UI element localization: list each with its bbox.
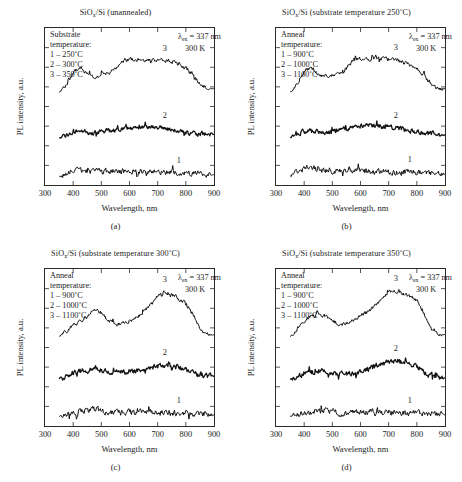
legend: Annealtemperature:1 – 900˚C2 – 1000˚C3 –… [281,30,322,80]
x-tick-label: 300 [39,430,52,439]
panel-d: SiOx/Si (substrate temperature 350˚C)Ann… [231,241,462,482]
excitation-wavelength: λex = 337 nm [178,272,221,284]
legend: Annealtemperature:1 – 900˚C2 – 1000˚C3 –… [50,271,91,321]
legend-item-2: 2 – 1000˚C [281,60,322,70]
legend-heading-line-2: temperature: [281,40,322,50]
legend-heading-line-1: Anneal [281,271,322,281]
legend-heading-line-1: Substrate [50,30,91,40]
panel-title: SiOx/Si (substrate temperature 350˚C) [231,249,462,259]
measurement-conditions: λex = 337 nm300 K [409,31,452,55]
curve-annotation-3: 3 [163,44,167,53]
panel-letter: (b) [231,221,462,231]
curve-annotation-2: 2 [163,111,167,120]
excitation-value: = 337 nm [187,273,221,282]
x-tick-label: 700 [151,189,164,198]
x-tick-label: 500 [326,430,339,439]
x-tick-label: 400 [298,430,311,439]
measurement-temperature: 300 K [178,43,221,55]
x-tick-label: 500 [95,430,108,439]
x-tick-label: 500 [326,189,339,198]
legend-item-1: 1 – 250˚C [50,50,91,60]
curve-annotation-3: 3 [163,275,167,284]
curve-annotation-1: 1 [408,396,412,405]
x-tick-label: 800 [180,189,193,198]
x-tick-label: 600 [354,189,367,198]
legend-heading-line-1: Anneal [281,30,322,40]
pl-spectra-figure: SiOx/Si (unannealed)Substratetemperature… [0,0,462,482]
legend: Substratetemperature:1 – 250˚C2 – 300˚C3… [50,30,91,80]
y-axis-title: PL intensity, a.u. [246,268,260,427]
x-tick-label: 300 [270,189,283,198]
x-tick-labels: 300400500600700800900 [44,430,215,442]
curve-annotation-2: 2 [394,111,398,120]
legend-item-3: 3 – 1100˚C [281,70,322,80]
legend-item-1: 1 – 900˚C [281,291,322,301]
curve-annotation-2: 2 [394,344,398,353]
legend-item-2: 2 – 1000˚C [50,301,91,311]
curve-annotation-3: 3 [394,43,398,52]
x-tick-label: 800 [411,430,424,439]
excitation-wavelength: λex = 337 nm [409,272,452,284]
legend-item-3: 3 – 1100˚C [281,311,322,321]
measurement-conditions: λex = 337 nm300 K [409,272,452,296]
panel-b: SiOx/Si (substrate temperature 250˚C)Ann… [231,0,462,241]
panel-title-suffix: /Si (substrate temperature 350˚C) [298,249,411,258]
x-tick-label: 900 [208,430,221,439]
panel-title: SiOx/Si (substrate temperature 300˚C) [0,249,231,259]
excitation-value: = 337 nm [418,32,452,41]
panel-c: SiOx/Si (substrate temperature 300˚C)Ann… [0,241,231,482]
panel-title-suffix: /Si (unannealed) [96,8,151,17]
x-tick-label: 500 [95,189,108,198]
legend-heading-line-2: temperature: [50,281,91,291]
spectrum-curve-2 [290,358,445,380]
spectrum-curve-1 [290,406,445,417]
x-tick-labels: 300400500600700800900 [275,189,446,201]
x-tick-labels: 300400500600700800900 [275,430,446,442]
panel-a: SiOx/Si (unannealed)Substratetemperature… [0,0,231,241]
legend-heading-line-1: Anneal [50,271,91,281]
measurement-temperature: 300 K [178,284,221,296]
x-tick-label: 700 [382,430,395,439]
y-axis-title: PL intensity, a.u. [246,27,260,186]
x-tick-label: 300 [270,430,283,439]
spectrum-curve-1 [290,164,445,177]
x-axis-title: Wavelength, nm [275,444,446,454]
legend-item-3: 3 – 350˚C [50,70,91,80]
measurement-temperature: 300 K [409,284,452,296]
x-tick-label: 400 [67,189,80,198]
measurement-conditions: λex = 337 nm300 K [178,31,221,55]
curve-annotation-1: 1 [177,396,181,405]
legend-heading-line-2: temperature: [50,40,91,50]
x-tick-label: 400 [67,430,80,439]
x-tick-label: 900 [439,430,452,439]
x-tick-label: 800 [180,430,193,439]
x-tick-label: 600 [123,189,136,198]
x-tick-label: 300 [39,189,52,198]
legend-item-2: 2 – 1000˚C [281,301,322,311]
panel-title-prefix: SiO [282,8,295,17]
x-tick-label: 700 [382,189,395,198]
panel-title-suffix: /Si (substrate temperature 250˚C) [298,8,411,17]
legend-heading-line-2: temperature: [281,281,322,291]
x-tick-label: 800 [411,189,424,198]
legend-item-2: 2 – 300˚C [50,60,91,70]
y-axis-title: PL intensity, a.u. [15,27,29,186]
legend-item-1: 1 – 900˚C [50,291,91,301]
excitation-value: = 337 nm [418,273,452,282]
x-axis-title: Wavelength, nm [275,203,446,213]
spectrum-curve-1 [59,166,214,178]
spectrum-curve-2 [59,362,214,380]
legend-item-3: 3 – 1100˚C [50,311,91,321]
panel-title-prefix: SiO [51,249,64,258]
x-axis-title: Wavelength, nm [44,444,215,454]
measurement-conditions: λex = 337 nm300 K [178,272,221,296]
curve-annotation-1: 1 [408,155,412,164]
x-tick-labels: 300400500600700800900 [44,189,215,201]
spectrum-curve-2 [290,121,445,138]
curve-annotation-1: 1 [177,156,181,165]
excitation-wavelength: λex = 337 nm [178,31,221,43]
x-tick-label: 400 [298,189,311,198]
x-tick-label: 600 [123,430,136,439]
spectrum-curve-1 [59,406,214,419]
excitation-wavelength: λex = 337 nm [409,31,452,43]
